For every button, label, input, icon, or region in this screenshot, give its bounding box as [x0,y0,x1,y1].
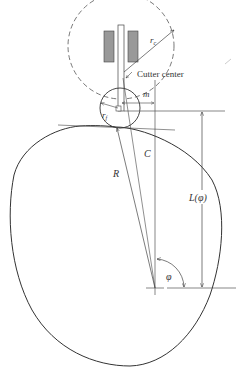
cutter-radius-label: rc [150,35,157,46]
contact-line [123,78,155,288]
cutter-center-pointer [126,72,132,78]
follower-pivot [116,106,121,111]
angle-label: φ [166,271,172,282]
cam-cutter-diagram: rc Cutter center rf m L(φ) R C φ [0,0,239,371]
roller-radius-arrow [101,103,118,108]
roller-radius-label: rf [102,110,109,121]
cutter-block-right [128,31,138,62]
contact-distance-label: C [144,148,151,159]
cam-profile [10,126,222,366]
length-label: L(φ) [188,192,207,204]
offset-label: m [143,89,150,99]
radius-label: R [112,168,119,179]
follower-shaft [118,25,124,111]
decorative-mark [225,59,231,64]
contact-tangent [58,125,175,130]
cutter-block-left [104,31,114,62]
cutter-center-label: Cutter center [137,69,184,79]
